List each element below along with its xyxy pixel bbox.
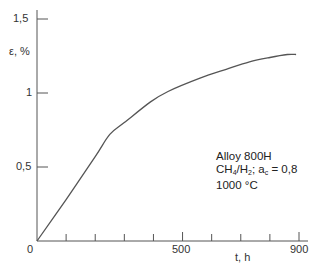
y-axis-label: ε, % (9, 45, 30, 57)
x-tick-label-500: 500 (172, 243, 190, 255)
chart-canvas (0, 0, 322, 275)
series-line-alloy-800h (37, 54, 296, 241)
origin-label: 0 (27, 243, 33, 255)
x-tick-label-900: 900 (290, 243, 308, 255)
chart-annotation: Alloy 800H CH4/H2; ac = 0,8 1000 °C (216, 150, 297, 192)
annotation-gas: CH4/H2; ac = 0,8 (216, 163, 297, 179)
axes (37, 10, 308, 241)
y-ticks (37, 19, 48, 167)
y-tick-label-1-5: 1,5 (13, 12, 28, 24)
annotation-temperature: 1000 °C (216, 179, 297, 192)
y-tick-label-1: 1 (26, 86, 32, 98)
x-ticks (66, 232, 299, 241)
x-axis-label: t, h (235, 251, 250, 263)
annotation-alloy: Alloy 800H (216, 150, 297, 163)
y-tick-label-0-5: 0,5 (16, 160, 31, 172)
